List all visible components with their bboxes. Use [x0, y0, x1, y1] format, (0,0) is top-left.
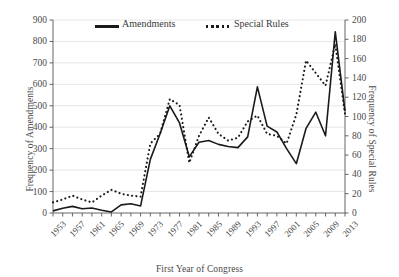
y-tick-marks-left — [50, 20, 54, 213]
series-line-amendments — [53, 32, 345, 212]
legend-label: Amendments — [122, 18, 175, 29]
special-rules-dotted-path — [53, 44, 345, 202]
chart-figure: Frequency of Amendments Frequency of Spe… — [0, 0, 399, 277]
y-axis-right-tick-label: 160 — [352, 54, 366, 64]
y-axis-left-tick-label: 500 — [33, 101, 47, 111]
axis-lines — [53, 20, 345, 213]
plot-area — [53, 20, 345, 213]
y-axis-right-tick-label: 140 — [352, 73, 366, 83]
legend-label: Special Rules — [234, 18, 289, 29]
gridlines — [53, 20, 345, 192]
y-axis-left-tick-label: 900 — [33, 15, 47, 25]
series-dots-special-rules — [53, 44, 345, 202]
y-axis-right-tick-label: 80 — [352, 131, 362, 141]
y-axis-left-tick-label: 400 — [33, 122, 47, 132]
y-axis-left-tick-label: 700 — [33, 58, 47, 68]
y-axis-right-tick-label: 20 — [352, 189, 362, 199]
y-axis-right-tick-label: 120 — [352, 92, 366, 102]
legend-swatch-dotted-line — [206, 25, 230, 28]
y-axis-left-tick-label: 600 — [33, 79, 47, 89]
y-axis-left-tick-label: 300 — [33, 144, 47, 154]
y-axis-right-tick-label: 0 — [352, 208, 357, 218]
y-axis-right-tick-label: 100 — [352, 112, 366, 122]
y-axis-right-title: Frequency of Special Rules — [367, 54, 377, 224]
legend-swatch-solid-line — [95, 25, 119, 28]
y-axis-left-tick-label: 800 — [33, 36, 47, 46]
y-axis-left-tick-label: 200 — [33, 165, 47, 175]
x-tick-marks — [53, 213, 345, 217]
y-axis-right-tick-label: 200 — [352, 15, 366, 25]
y-axis-left-tick-label: 0 — [42, 208, 47, 218]
y-axis-right-tick-label: 60 — [352, 150, 362, 160]
y-axis-right-tick-label: 180 — [352, 34, 366, 44]
y-tick-marks-right — [345, 20, 349, 213]
y-axis-right-tick-label: 40 — [352, 169, 362, 179]
y-axis-left-tick-label: 100 — [33, 187, 47, 197]
